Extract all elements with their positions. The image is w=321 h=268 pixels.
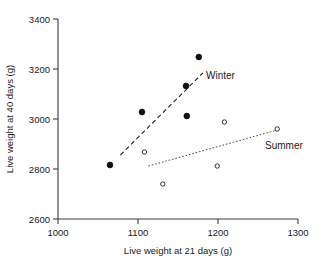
y-tick-label-2600: 2600 xyxy=(29,214,50,225)
scatter-chart: 3400 3200 3000 2800 2600 1000 1100 1200 … xyxy=(0,0,321,268)
y-tick-marks xyxy=(53,19,58,219)
x-tick-label-1200: 1200 xyxy=(207,227,228,238)
x-tick-label-1300: 1300 xyxy=(287,227,308,238)
data-point-winter xyxy=(183,83,189,89)
data-point-summer xyxy=(142,150,146,154)
data-point-winter xyxy=(184,113,190,119)
plot-area: 3400 3200 3000 2800 2600 1000 1100 1200 … xyxy=(0,0,321,268)
series-winter-points xyxy=(107,54,202,168)
y-tick-label-3200: 3200 xyxy=(29,64,50,75)
series-label-winter: Winter xyxy=(206,70,236,81)
data-point-summer xyxy=(161,182,165,186)
y-tick-label-2800: 2800 xyxy=(29,164,50,175)
data-point-summer xyxy=(275,127,279,131)
x-axis-title: Live weight at 21 days (g) xyxy=(124,245,232,256)
trendline-winter xyxy=(120,73,202,155)
y-tick-label-3000: 3000 xyxy=(29,114,50,125)
x-tick-label-1100: 1100 xyxy=(128,227,148,238)
x-tick-label-1000: 1000 xyxy=(47,227,68,238)
axis-lines xyxy=(58,19,298,219)
data-point-winter xyxy=(196,54,202,60)
data-point-summer xyxy=(215,164,219,168)
series-summer-points xyxy=(142,120,279,186)
y-tick-label-3400: 3400 xyxy=(29,14,50,25)
data-point-winter xyxy=(139,109,145,115)
y-axis-title: Live weight at 40 days (g) xyxy=(4,65,15,173)
data-point-winter xyxy=(107,162,113,168)
trendline-summer xyxy=(148,130,277,166)
x-tick-marks xyxy=(58,219,298,224)
data-point-summer xyxy=(222,120,226,124)
series-label-summer: Summer xyxy=(265,140,303,151)
